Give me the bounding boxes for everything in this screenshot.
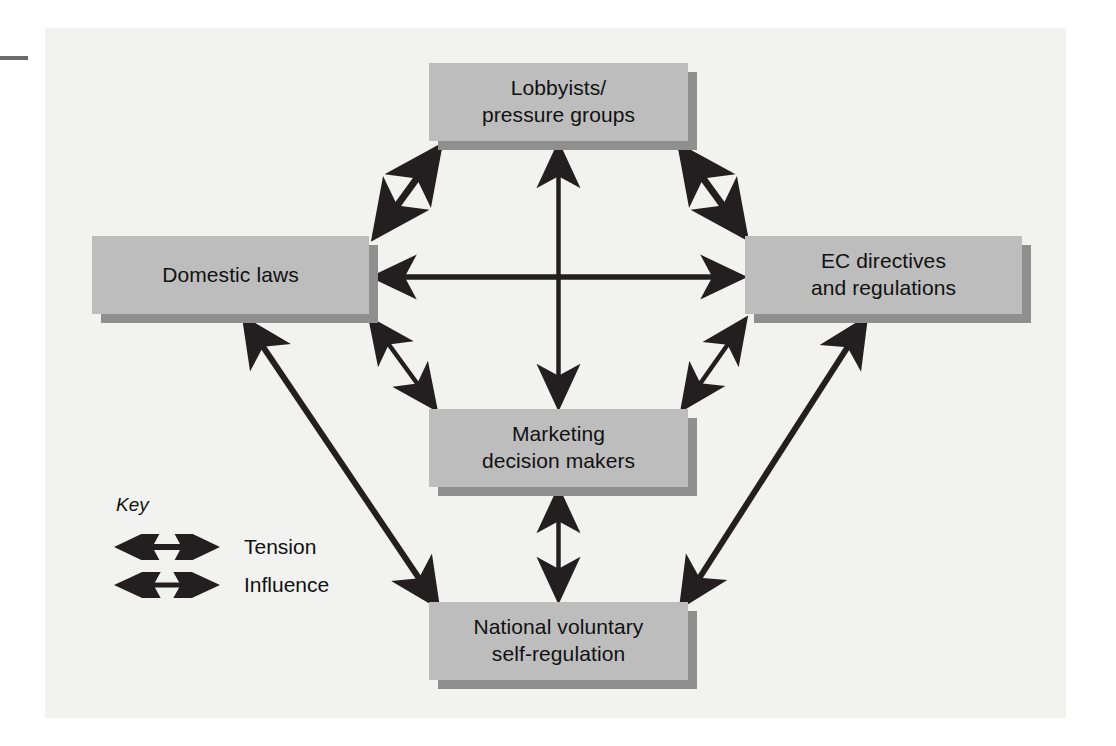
legend-item-tension: Tension (108, 528, 329, 566)
connector-ec-marketing (683, 320, 745, 408)
page-canvas: Lobbyists/ pressure groups Domestic laws… (0, 0, 1116, 746)
connector-domestic-lobbyists (375, 148, 439, 236)
figure-panel: Lobbyists/ pressure groups Domestic laws… (45, 28, 1066, 718)
influence-arrow-icon (108, 572, 226, 598)
node-domestic-laws[interactable]: Domestic laws (92, 236, 369, 314)
legend-item-influence-label: Influence (244, 573, 329, 597)
legend-item-influence: Influence (108, 566, 329, 604)
node-lobbyists[interactable]: Lobbyists/ pressure groups (429, 63, 688, 141)
node-national-self-regulation[interactable]: National voluntary self-regulation (429, 602, 688, 680)
node-lobbyists-label: Lobbyists/ pressure groups (482, 75, 635, 129)
legend-key: Key Tension Influence (108, 494, 329, 604)
node-ec-directives[interactable]: EC directives and regulations (745, 236, 1022, 314)
page-rule-mark (0, 56, 28, 60)
legend-title: Key (116, 494, 329, 516)
node-ec-directives-label: EC directives and regulations (811, 248, 956, 302)
node-marketing-decision-makers-label: Marketing decision makers (482, 421, 635, 475)
connector-domestic-marketing (371, 320, 435, 408)
node-marketing-decision-makers[interactable]: Marketing decision makers (429, 409, 688, 487)
legend-item-tension-label: Tension (244, 535, 316, 559)
connector-lobbyists-ec (681, 148, 745, 236)
connector-ec-national (682, 320, 865, 605)
tension-arrow-icon (108, 534, 226, 560)
node-national-self-regulation-label: National voluntary self-regulation (474, 614, 644, 668)
node-domestic-laws-label: Domestic laws (162, 262, 299, 289)
